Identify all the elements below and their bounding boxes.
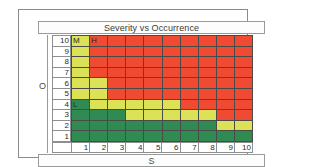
heatmap-cell[interactable]: [126, 131, 144, 142]
heatmap-cell[interactable]: [72, 78, 90, 89]
heatmap-cell[interactable]: [199, 36, 217, 47]
heatmap-cell[interactable]: [108, 78, 126, 89]
heatmap-cell[interactable]: L: [72, 100, 90, 111]
heatmap-cell[interactable]: [90, 110, 108, 121]
heatmap-cell[interactable]: [144, 100, 162, 111]
heatmap-cell[interactable]: [199, 110, 217, 121]
heatmap-cell[interactable]: [181, 47, 199, 58]
heatmap-cell[interactable]: [163, 131, 181, 142]
heatmap-cell[interactable]: [108, 110, 126, 121]
heatmap-cell[interactable]: [181, 68, 199, 79]
heatmap-cell[interactable]: [126, 78, 144, 89]
heatmap-cell[interactable]: [72, 131, 90, 142]
heatmap-cell[interactable]: [181, 121, 199, 132]
heatmap-cell[interactable]: [144, 121, 162, 132]
heatmap-cell[interactable]: [72, 121, 90, 132]
heatmap-cell[interactable]: [181, 100, 199, 111]
heatmap-cell[interactable]: [181, 131, 199, 142]
heatmap-cell[interactable]: [144, 78, 162, 89]
heatmap-cell[interactable]: [217, 131, 235, 142]
heatmap-cell[interactable]: [90, 121, 108, 132]
heatmap-cell[interactable]: [90, 78, 108, 89]
heatmap-cell[interactable]: [126, 36, 144, 47]
heatmap-cell[interactable]: [126, 68, 144, 79]
heatmap-cell[interactable]: [163, 36, 181, 47]
heatmap-cell[interactable]: [126, 57, 144, 68]
heatmap-cell[interactable]: [199, 131, 217, 142]
heatmap-cell[interactable]: [108, 89, 126, 100]
heatmap-cell[interactable]: [235, 89, 253, 100]
heatmap-cell[interactable]: [144, 68, 162, 79]
heatmap-cell[interactable]: [144, 110, 162, 121]
heatmap-cell[interactable]: [163, 68, 181, 79]
heatmap-cell[interactable]: [163, 89, 181, 100]
heatmap-cell[interactable]: [181, 89, 199, 100]
heatmap-cell[interactable]: [235, 121, 253, 132]
heatmap-cell[interactable]: [108, 100, 126, 111]
heatmap-cell[interactable]: [144, 131, 162, 142]
heatmap-cell[interactable]: [126, 47, 144, 58]
heatmap-cell[interactable]: [235, 47, 253, 58]
heatmap-cell[interactable]: [126, 110, 144, 121]
heatmap-cell[interactable]: [144, 36, 162, 47]
heatmap-cell[interactable]: [163, 110, 181, 121]
heatmap-cell[interactable]: [90, 47, 108, 58]
heatmap-cell[interactable]: [90, 57, 108, 68]
heatmap-cell[interactable]: [144, 89, 162, 100]
heatmap-cell[interactable]: [126, 100, 144, 111]
heatmap-cell[interactable]: [144, 57, 162, 68]
heatmap-cell[interactable]: [126, 89, 144, 100]
heatmap-cell[interactable]: [235, 110, 253, 121]
heatmap-cell[interactable]: [90, 68, 108, 79]
heatmap-cell[interactable]: [72, 47, 90, 58]
heatmap-cell[interactable]: [235, 57, 253, 68]
heatmap-cell[interactable]: [163, 121, 181, 132]
heatmap-cell[interactable]: [199, 100, 217, 111]
heatmap-cell[interactable]: [217, 100, 235, 111]
heatmap-cell[interactable]: [163, 100, 181, 111]
heatmap-cell[interactable]: [163, 47, 181, 58]
heatmap-cell[interactable]: [217, 68, 235, 79]
heatmap-cell[interactable]: [108, 47, 126, 58]
heatmap-cell[interactable]: [181, 36, 199, 47]
heatmap-cell[interactable]: M: [72, 36, 90, 47]
heatmap-cell[interactable]: [72, 68, 90, 79]
heatmap-cell[interactable]: [199, 57, 217, 68]
heatmap-cell[interactable]: [108, 57, 126, 68]
heatmap-cell[interactable]: [217, 47, 235, 58]
heatmap-cell[interactable]: [181, 110, 199, 121]
heatmap-cell[interactable]: [199, 89, 217, 100]
heatmap-cell[interactable]: [108, 131, 126, 142]
heatmap-cell[interactable]: [72, 57, 90, 68]
heatmap-cell[interactable]: [181, 57, 199, 68]
heatmap-cell[interactable]: [108, 121, 126, 132]
heatmap-cell[interactable]: [235, 78, 253, 89]
heatmap-cell[interactable]: [199, 68, 217, 79]
heatmap-cell[interactable]: [72, 110, 90, 121]
heatmap-cell[interactable]: [235, 131, 253, 142]
heatmap-cell[interactable]: H: [90, 36, 108, 47]
heatmap-cell[interactable]: [217, 36, 235, 47]
heatmap-cell[interactable]: [90, 100, 108, 111]
heatmap-cell[interactable]: [235, 68, 253, 79]
heatmap-cell[interactable]: [217, 57, 235, 68]
heatmap-cell[interactable]: [235, 36, 253, 47]
heatmap-cell[interactable]: [199, 47, 217, 58]
heatmap-cell[interactable]: [199, 121, 217, 132]
heatmap-cell[interactable]: [144, 47, 162, 58]
heatmap-cell[interactable]: [199, 78, 217, 89]
heatmap-cell[interactable]: [163, 57, 181, 68]
heatmap-cell[interactable]: [90, 131, 108, 142]
heatmap-cell[interactable]: [235, 100, 253, 111]
heatmap-cell[interactable]: [217, 121, 235, 132]
heatmap-cell[interactable]: [163, 78, 181, 89]
heatmap-cell[interactable]: [217, 110, 235, 121]
heatmap-cell[interactable]: [181, 78, 199, 89]
heatmap-cell[interactable]: [72, 89, 90, 100]
heatmap-cell[interactable]: [90, 89, 108, 100]
heatmap-cell[interactable]: [108, 68, 126, 79]
heatmap-cell[interactable]: [217, 78, 235, 89]
heatmap-cell[interactable]: [217, 89, 235, 100]
heatmap-cell[interactable]: [126, 121, 144, 132]
heatmap-cell[interactable]: [108, 36, 126, 47]
